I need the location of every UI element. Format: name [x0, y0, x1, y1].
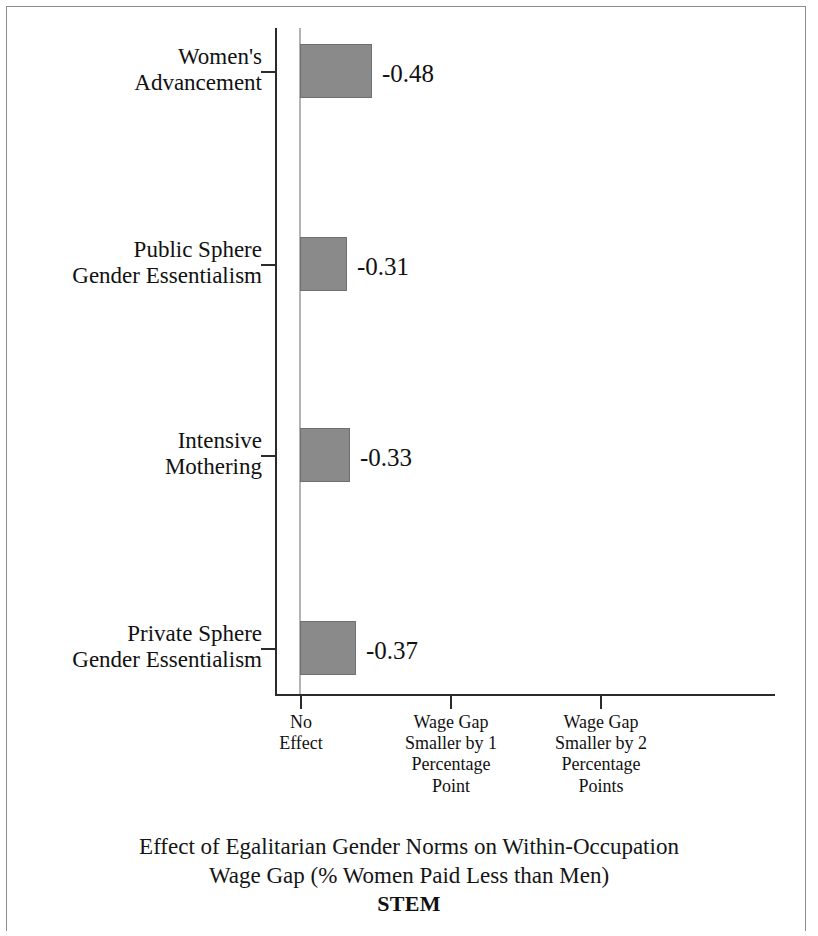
bar-value-intensive-mothering: -0.33	[360, 445, 412, 470]
caption-subtitle-stem: STEM	[0, 890, 818, 918]
caption-line-1: Effect of Egalitarian Gender Norms on Wi…	[0, 832, 818, 861]
category-label-womens-advancement: Women's Advancement	[134, 44, 262, 96]
x-axis-tick-label-smaller-by-2: Wage Gap Smaller by 2 Percentage Points	[506, 712, 696, 797]
bar-value-public-sphere-gender-essentialism: -0.31	[357, 254, 409, 279]
chart-caption: Effect of Egalitarian Gender Norms on Wi…	[0, 832, 818, 918]
y-axis-tick	[261, 648, 275, 650]
bar-public-sphere-gender-essentialism	[300, 237, 347, 291]
x-axis-tick	[300, 696, 302, 709]
figure-page: Women's Advancement Public Sphere Gender…	[0, 0, 818, 936]
bar-intensive-mothering	[300, 428, 350, 482]
caption-line-2: Wage Gap (% Women Paid Less than Men)	[0, 861, 818, 890]
x-axis-tick	[600, 696, 602, 709]
y-axis-tick	[261, 71, 275, 73]
category-label-public-sphere-gender-essentialism: Public Sphere Gender Essentialism	[72, 237, 262, 289]
x-axis-line	[275, 694, 775, 696]
chart-plot-area: Women's Advancement Public Sphere Gender…	[0, 0, 818, 700]
category-label-intensive-mothering: Intensive Mothering	[165, 428, 262, 480]
bar-private-sphere-gender-essentialism	[300, 621, 356, 675]
y-axis-tick	[261, 264, 275, 266]
x-axis-tick	[450, 696, 452, 709]
bar-womens-advancement	[300, 44, 372, 98]
bar-value-private-sphere-gender-essentialism: -0.37	[366, 638, 418, 663]
y-axis-tick	[261, 455, 275, 457]
zero-reference-line	[299, 28, 301, 694]
category-label-private-sphere-gender-essentialism: Private Sphere Gender Essentialism	[72, 621, 262, 673]
bar-value-womens-advancement: -0.48	[382, 61, 434, 86]
y-axis-line	[275, 28, 277, 696]
